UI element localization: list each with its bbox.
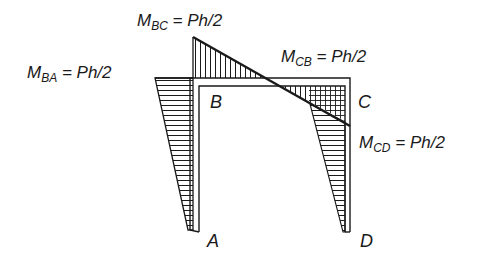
moment-value: = Ph/2 [62,63,112,82]
moment-value: = Ph/2 [317,47,367,66]
moment-symbol: M [281,47,295,66]
label-m-bc: MBC = Ph/2 [137,12,222,32]
moment-subscript: BA [41,71,57,85]
node-label-d: D [360,232,373,250]
label-m-cd: MCD = Ph/2 [359,134,445,154]
moment-symbol: M [359,133,373,152]
moment-symbol: M [137,11,151,30]
moment-subscript: CD [373,141,390,155]
moment-subscript: CB [295,55,312,69]
node-label-a: A [207,232,219,250]
moment-value: = Ph/2 [173,11,223,30]
moment-value: = Ph/2 [395,133,445,152]
moment-subscript: BC [151,19,168,33]
moment-region-ba [155,78,193,230]
node-label-c: C [358,93,371,111]
moment-region-cd [310,104,345,232]
node-label-b: B [210,93,222,111]
label-m-ba: MBA = Ph/2 [27,64,112,84]
moment-symbol: M [27,63,41,82]
label-m-cb: MCB = Ph/2 [281,48,366,68]
moment-diagram-canvas [0,0,493,257]
